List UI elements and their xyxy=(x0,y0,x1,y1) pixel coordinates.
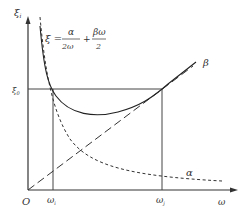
formula: ξ = α 2ω + βω 2 xyxy=(45,27,106,51)
svg-text:α: α xyxy=(68,27,74,37)
svg-text:ξ =: ξ = xyxy=(45,33,62,44)
svg-text:ξ0: ξ0 xyxy=(12,86,20,96)
beta-label: β xyxy=(202,57,209,68)
alpha-label: α xyxy=(186,167,193,178)
svg-text:ωi: ωi xyxy=(47,195,56,206)
damping-diagram: ξi ξ0 O ωi ωj ω β α ξ = α 2ω + βω 2 xyxy=(0,0,247,212)
svg-text:ξi: ξi xyxy=(14,7,22,19)
origin-label: O xyxy=(22,196,30,207)
svg-text:ωj: ωj xyxy=(156,195,165,207)
svg-text:2: 2 xyxy=(95,42,101,51)
y-axis-arrow-icon xyxy=(26,16,31,24)
svg-text:+: + xyxy=(83,34,91,44)
svg-text:2ω: 2ω xyxy=(61,42,74,51)
x-axis-arrow-icon xyxy=(230,188,238,193)
svg-text:βω: βω xyxy=(92,27,106,37)
x-axis-label: ω xyxy=(218,197,226,207)
